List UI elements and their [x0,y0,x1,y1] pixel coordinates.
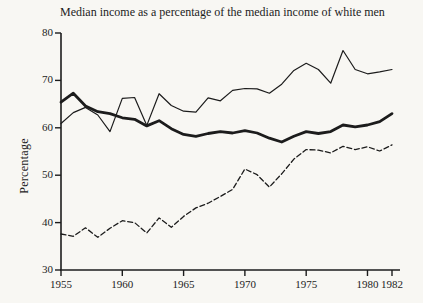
series-thin-solid-line [61,51,392,132]
x-tick-label: 1970 [228,278,262,290]
y-tick-label: 40 [27,216,53,228]
x-tick-label: 1982 [375,278,409,290]
x-tick-label: 1955 [44,278,78,290]
x-tick-label: 1975 [289,278,323,290]
chart-figure: Median income as a percentage of the med… [0,0,423,303]
series-thick-solid-line [61,93,392,142]
series-dashed-line [61,145,392,237]
y-tick-label: 80 [27,26,53,38]
x-tick-label: 1960 [105,278,139,290]
x-tick-label: 1965 [167,278,201,290]
plot-area [0,0,423,303]
y-tick-label: 60 [27,121,53,133]
y-tick-label: 70 [27,73,53,85]
y-tick-label: 30 [27,263,53,275]
y-tick-label: 50 [27,168,53,180]
